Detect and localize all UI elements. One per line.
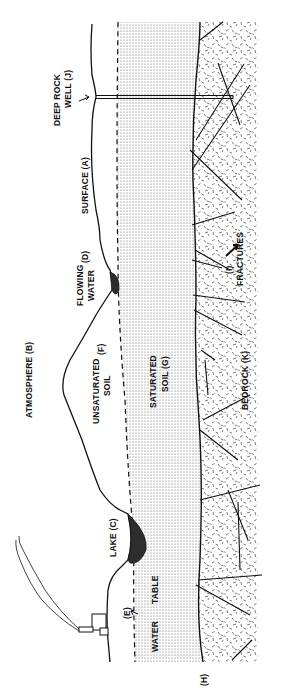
bedrock-region [193, 22, 258, 662]
hydrogeology-cross-section-diagram: DEEP ROCK WELL (J) SURFACE (A) FLOWING W… [0, 0, 287, 691]
label-fractures-letter: (I) [224, 265, 234, 274]
label-atmosphere: ATMOSPHERE (B) [24, 342, 34, 418]
label-water-table-line2: TABLE [150, 575, 160, 604]
well-arrow-icon [79, 95, 89, 101]
label-saturated-line1: SATURATED [148, 355, 158, 408]
label-interface: (H) [199, 674, 209, 686]
saturated-soil-region [117, 22, 203, 662]
house-smokestack-icon [79, 614, 108, 635]
label-unsaturated-letter: (F) [96, 344, 106, 355]
label-deep-rock-well-line1: DEEP ROCK [52, 73, 62, 126]
label-lake: LAKE (C) [108, 518, 118, 557]
label-surface: SURFACE (A) [80, 157, 90, 214]
label-fractures: FRACTURES [235, 232, 245, 286]
label-water-table-letter: (E) [122, 607, 132, 619]
label-flowing-water-line1: FLOWING [75, 264, 85, 306]
label-unsaturated-line2: SOIL [102, 375, 112, 396]
label-flowing-water-line2: WATER [86, 270, 96, 301]
label-saturated-line2: SOIL (G) [160, 356, 170, 392]
smoke-plume [16, 536, 79, 631]
label-deep-rock-well-line2: WELL (J) [63, 70, 73, 108]
label-flowing-water-letter: (D) [80, 251, 90, 263]
label-unsaturated-line1: UNSATURATED [91, 358, 101, 424]
label-water-table-line1: WATER [150, 621, 160, 652]
label-bedrock: BEDROCK (K) [240, 351, 250, 410]
